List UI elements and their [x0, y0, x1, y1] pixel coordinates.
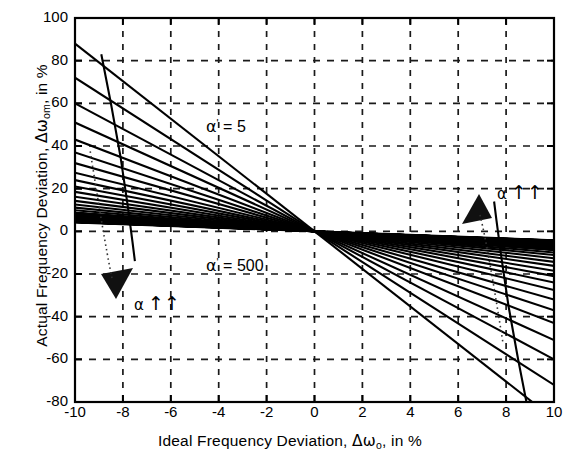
alpha-symbol: α — [206, 117, 217, 136]
y-axis-title-subscript: om — [40, 104, 52, 119]
alpha-min-value: 5 — [237, 118, 246, 135]
x-tick-label: 10 — [534, 403, 574, 420]
y-axis-title: Actual Frequency Deviation, Δωom, in % — [33, 56, 52, 356]
alpha-min-label: α' = 5 — [206, 117, 246, 136]
x-tick-label: 4 — [390, 403, 430, 420]
plot-area — [0, 0, 580, 462]
up-arrows-icon: ↑↑ — [511, 181, 543, 203]
alpha-equals: = — [219, 257, 237, 274]
alpha-symbol: α — [134, 296, 144, 314]
alpha-max-value: 500 — [237, 257, 264, 274]
x-tick-label: 8 — [486, 403, 526, 420]
x-tick-label: -4 — [199, 403, 239, 420]
y-tick-label: 100 — [22, 8, 68, 25]
x-tick-label: -2 — [247, 403, 287, 420]
chart-figure: -10-8-6-4-20246810 100806040200-20-40-60… — [0, 0, 580, 462]
arrowhead-right — [462, 194, 492, 224]
alpha-increase-left: α ↑↑ — [134, 292, 180, 314]
alpha-increase-right: α ↑↑ — [497, 181, 543, 203]
alpha-max-label: α' = 500 — [206, 256, 264, 275]
x-axis-title-symbol: Δω — [352, 432, 376, 450]
alpha-symbol: α — [206, 256, 217, 275]
x-axis-title: Ideal Frequency Deviation, Δωo, in % — [0, 432, 580, 451]
x-tick-label: 2 — [342, 403, 382, 420]
y-axis-title-tail: , in % — [33, 64, 50, 104]
arrowhead-left — [101, 268, 133, 299]
alpha-symbol: α — [497, 185, 507, 203]
x-tick-label: -6 — [151, 403, 191, 420]
y-axis-title-symbol: Δω — [33, 119, 51, 143]
x-tick-label: -8 — [103, 403, 143, 420]
y-tick-label: -80 — [22, 392, 68, 409]
x-axis-title-tail: , in % — [382, 432, 422, 449]
x-tick-label: 6 — [438, 403, 478, 420]
x-tick-label: 0 — [295, 403, 335, 420]
y-axis-title-main: Actual Frequency Deviation, — [33, 143, 50, 347]
up-arrows-icon: ↑↑ — [148, 292, 180, 314]
x-axis-title-main: Ideal Frequency Deviation, — [158, 432, 352, 449]
alpha-equals: = — [219, 118, 237, 135]
